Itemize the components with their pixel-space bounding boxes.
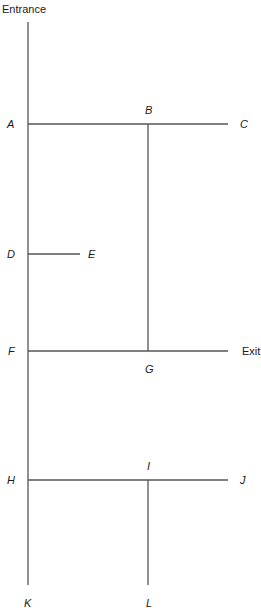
- point-label-k: K: [24, 597, 32, 609]
- point-label-l: L: [146, 597, 152, 609]
- point-label-d: D: [7, 248, 15, 260]
- point-label-g: G: [145, 363, 154, 375]
- point-label-a: A: [6, 118, 14, 130]
- point-label-c: C: [240, 118, 248, 130]
- point-label-j: J: [239, 474, 246, 486]
- point-label-f: F: [8, 345, 16, 357]
- point-label-e: E: [88, 248, 96, 260]
- point-label-i: I: [147, 460, 150, 472]
- entrance-label: Entrance: [2, 3, 46, 15]
- point-label-b: B: [145, 104, 152, 116]
- exit-label: Exit: [242, 345, 260, 357]
- maze-diagram: Entrance Exit A B C D E F G H I J K L: [0, 0, 261, 615]
- point-label-h: H: [7, 474, 15, 486]
